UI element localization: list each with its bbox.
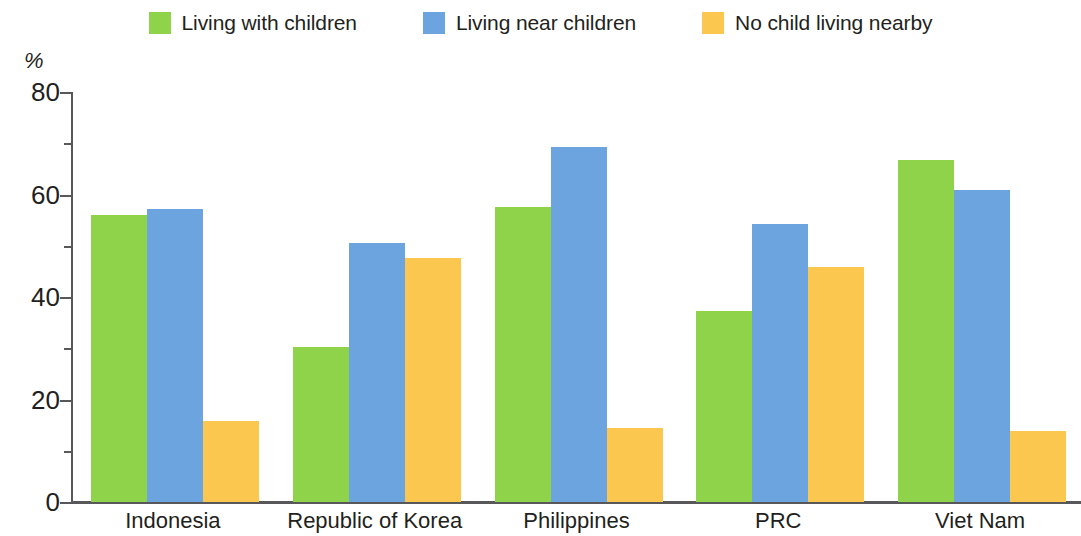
chart-legend: Living with children Living near childre…: [0, 6, 1081, 40]
bar-chart-figure: Living with children Living near childre…: [0, 0, 1081, 536]
y-tick-major: [60, 92, 72, 94]
bar[interactable]: [349, 243, 405, 502]
bar[interactable]: [808, 267, 864, 502]
x-category-label: PRC: [677, 508, 879, 534]
bar[interactable]: [696, 311, 752, 502]
bar[interactable]: [405, 258, 461, 502]
bar[interactable]: [1010, 431, 1066, 502]
y-tick-label: 20: [2, 387, 60, 413]
legend-label-no-child-living-nearby: No child living nearby: [735, 12, 932, 34]
legend-swatch-orange: [702, 12, 724, 34]
bar[interactable]: [495, 207, 551, 502]
bar[interactable]: [752, 224, 808, 502]
y-tick-major: [60, 502, 72, 504]
bar-groups: [72, 92, 1081, 502]
y-tick-label: 0: [2, 489, 60, 515]
bar-group: [898, 92, 1066, 502]
y-tick-label: 60: [2, 182, 60, 208]
bar[interactable]: [203, 421, 259, 502]
bar-group: [696, 92, 864, 502]
y-axis-tick-labels: 020406080: [0, 92, 60, 502]
x-category-label: Viet Nam: [879, 508, 1081, 534]
x-category-label: Indonesia: [72, 508, 274, 534]
bar-group: [91, 92, 259, 502]
y-tick-major: [60, 400, 72, 402]
legend-swatch-blue: [423, 12, 445, 34]
bar[interactable]: [607, 428, 663, 502]
y-tick-label: 80: [2, 79, 60, 105]
x-category-label: Republic of Korea: [274, 508, 476, 534]
bar[interactable]: [147, 209, 203, 502]
x-axis-category-labels: IndonesiaRepublic of KoreaPhilippinesPRC…: [72, 508, 1081, 536]
legend-label-living-near-children: Living near children: [456, 12, 636, 34]
bar[interactable]: [91, 215, 147, 502]
y-axis-unit-label: %: [24, 48, 44, 74]
bar[interactable]: [954, 190, 1010, 502]
legend-label-living-with-children: Living with children: [182, 12, 357, 34]
y-tick-minor: [64, 451, 72, 453]
y-tick-minor: [64, 143, 72, 145]
y-tick-major: [60, 297, 72, 299]
x-category-label: Philippines: [476, 508, 678, 534]
y-tick-label: 40: [2, 284, 60, 310]
bar[interactable]: [551, 147, 607, 502]
y-tick-minor: [64, 348, 72, 350]
y-tick-major: [60, 195, 72, 197]
bar[interactable]: [898, 160, 954, 502]
bar[interactable]: [293, 347, 349, 502]
legend-item-no-child-living-nearby: No child living nearby: [702, 12, 932, 34]
bar-group: [495, 92, 663, 502]
y-tick-minor: [64, 246, 72, 248]
legend-item-living-near-children: Living near children: [423, 12, 636, 34]
legend-item-living-with-children: Living with children: [149, 12, 357, 34]
legend-swatch-green: [149, 12, 171, 34]
bar-group: [293, 92, 461, 502]
